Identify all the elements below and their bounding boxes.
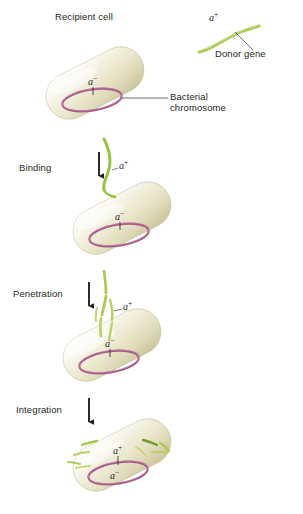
label-recipient-cell: Recipient cell: [55, 11, 113, 22]
allele-penetration-dna-sign: +: [128, 299, 132, 308]
donor-dna-bound: [104, 139, 115, 197]
allele-integration-minus: a−: [110, 470, 119, 481]
diagram-canvas: [0, 0, 303, 514]
allele-penetration-sign: −: [110, 336, 114, 345]
allele-penetration-chromosome: a−: [105, 338, 114, 349]
transformation-figure: Recipient cell Donor gene Bacterial chro…: [0, 0, 303, 514]
allele-binding-dna: a+: [119, 160, 128, 171]
allele-donor-gene-sign: +: [214, 10, 218, 19]
allele-recipient-sign: −: [93, 74, 97, 83]
allele-integration-plus-sign: +: [118, 443, 122, 452]
stage-label-binding: Binding: [19, 162, 51, 173]
allele-binding-sign: −: [120, 209, 124, 218]
allele-integration-plus: a+: [113, 445, 122, 456]
label-donor-gene: Donor gene: [215, 48, 266, 59]
allele-tick-binding-dna: [112, 168, 118, 170]
label-bacterial-chromosome-line1: Bacterial: [170, 91, 208, 102]
allele-binding-dna-sign: +: [124, 158, 128, 167]
allele-penetration-dna: a+: [123, 301, 132, 312]
stage-label-integration: Integration: [16, 404, 62, 415]
allele-integration-minus-sign: −: [115, 468, 119, 477]
stage-label-penetration: Penetration: [13, 288, 63, 299]
allele-recipient-chromosome: a−: [88, 76, 97, 87]
allele-tick-penetration-dna: [114, 309, 122, 311]
allele-binding-chromosome: a−: [115, 211, 124, 222]
allele-donor-gene: a+: [209, 12, 218, 23]
label-bacterial-chromosome-line2: chromosome: [170, 102, 226, 113]
